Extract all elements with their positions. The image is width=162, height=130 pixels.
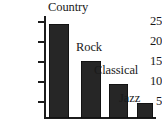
- bar-label-rock: Rock: [76, 41, 102, 54]
- bar-label-classical: Classical: [94, 64, 138, 77]
- bar-jazz: [137, 103, 153, 118]
- bar-label-country: Country: [48, 1, 88, 14]
- bar-country: [49, 24, 69, 118]
- bar-label-jazz: Jazz: [119, 92, 140, 105]
- bar-chart: 25 20 15 10 5 Country Rock Classical Jaz…: [0, 0, 162, 130]
